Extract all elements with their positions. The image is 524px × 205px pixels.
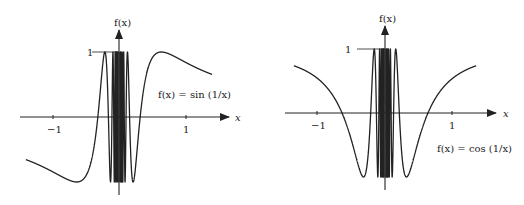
function-annotation: f(x) = cos (1/x) — [437, 143, 512, 154]
y-axis-label: f(x) — [114, 17, 131, 28]
figure: f(x) x −1 1 1 f(x) = sin (1/x) f(x) x −1… — [0, 0, 524, 205]
y-axis-label: f(x) — [379, 13, 396, 24]
x-tick-label-neg: −1 — [311, 120, 326, 131]
y-tick-label: 1 — [87, 47, 93, 58]
x-axis-label: x — [235, 112, 241, 123]
x-tick-label-neg: −1 — [47, 124, 62, 135]
x-tick-label-pos: 1 — [183, 124, 189, 135]
function-annotation: f(x) = sin (1/x) — [158, 89, 231, 100]
x-axis-label: x — [503, 108, 509, 119]
x-tick-label-pos: 1 — [449, 120, 455, 131]
y-tick-label: 1 — [345, 44, 351, 55]
plot-cos: f(x) x −1 1 1 f(x) = cos (1/x) — [285, 13, 512, 190]
plot-sin: f(x) x −1 1 1 f(x) = sin (1/x) — [20, 17, 241, 195]
